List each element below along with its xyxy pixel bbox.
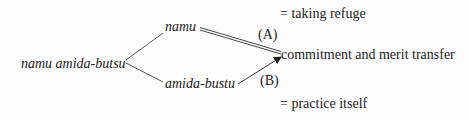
edge-label-a: (A) [258,27,277,43]
target-node-label: commitment and merit transfer [281,47,455,63]
annotation-taking-refuge: = taking refuge [280,6,366,22]
root-node-label: namu amida-butsu [21,56,126,72]
annotation-practice-itself: = practice itself [280,96,367,112]
branch-namu-label: namu [165,19,196,35]
edge-root-to-amida [126,63,163,82]
edge-root-to-namu [126,33,163,60]
edge-label-b: (B) [260,73,279,89]
branch-amida-label: amida-bustu [165,76,235,92]
